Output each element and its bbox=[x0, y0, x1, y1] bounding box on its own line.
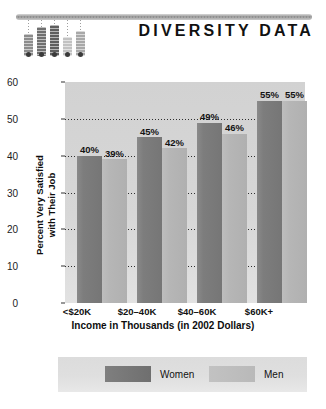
bar-chart: Percent Very Satisfied with Their Job 60… bbox=[0, 70, 326, 340]
logo-bead bbox=[52, 52, 57, 57]
logo-bead bbox=[39, 52, 44, 57]
y-axis-title-line2: with Their Job bbox=[46, 115, 58, 295]
legend-swatch-men bbox=[209, 366, 255, 382]
x-tick-label-lt20k: <$20K bbox=[52, 306, 102, 317]
bar-women-20-40k[interactable] bbox=[137, 137, 162, 303]
y-tick-label: 20 bbox=[0, 224, 18, 235]
x-axis-title: Income in Thousands (in 2002 Dollars) bbox=[0, 320, 326, 331]
x-tick-label-40-60k: $40–60K bbox=[170, 306, 224, 317]
bar-men-lt20k[interactable] bbox=[102, 159, 127, 303]
logo-string bbox=[28, 20, 29, 34]
logo-bead bbox=[26, 52, 31, 57]
legend-item-women[interactable]: Women bbox=[105, 366, 194, 382]
bar-men-60kplus[interactable] bbox=[282, 101, 307, 304]
bar-value-women-40-60k: 49% bbox=[194, 111, 225, 122]
page-header: DIVERSITY DATA bbox=[0, 0, 326, 70]
legend-swatch-women bbox=[105, 366, 151, 382]
bar-women-lt20k[interactable] bbox=[77, 156, 102, 303]
logo-string bbox=[41, 20, 42, 27]
y-axis-title: Percent Very Satisfied with Their Job bbox=[34, 115, 58, 295]
x-tick-label-20-40k: $20–40K bbox=[110, 306, 164, 317]
bar-value-men-60kplus: 55% bbox=[279, 89, 310, 100]
bar-value-men-20-40k: 42% bbox=[159, 137, 190, 148]
y-tick-label: 10 bbox=[0, 261, 18, 272]
y-tick-label: 60 bbox=[0, 77, 18, 88]
bar-value-women-20-40k: 45% bbox=[134, 126, 165, 137]
abacus-bars-logo-icon bbox=[16, 14, 116, 64]
y-tick-label: 0 bbox=[0, 298, 18, 309]
page-title: DIVERSITY DATA bbox=[139, 22, 314, 40]
legend-label-men: Men bbox=[264, 369, 283, 380]
bar-women-40-60k[interactable] bbox=[197, 123, 222, 303]
y-tick-label: 50 bbox=[0, 113, 18, 124]
logo-string bbox=[67, 20, 68, 37]
logo-rail bbox=[16, 14, 312, 20]
bar-women-60kplus[interactable] bbox=[257, 101, 282, 304]
plot-area: 40% 39% 45% 42% 49% 46% 55% 55% bbox=[65, 82, 305, 303]
legend-label-women: Women bbox=[160, 369, 194, 380]
chart-legend: Women Men bbox=[58, 357, 307, 392]
legend-item-men[interactable]: Men bbox=[209, 366, 283, 382]
logo-bead bbox=[65, 52, 70, 57]
y-axis-title-line1: Percent Very Satisfied bbox=[34, 115, 46, 295]
bar-men-40-60k[interactable] bbox=[222, 134, 247, 303]
y-tick-label: 40 bbox=[0, 150, 18, 161]
logo-string bbox=[80, 20, 81, 31]
bar-value-men-lt20k: 39% bbox=[99, 148, 130, 159]
y-tick-label: 30 bbox=[0, 187, 18, 198]
bar-value-men-40-60k: 46% bbox=[219, 122, 250, 133]
x-tick-label-60kplus: $60K+ bbox=[232, 306, 286, 317]
bar-men-20-40k[interactable] bbox=[162, 148, 187, 303]
logo-bead bbox=[78, 52, 83, 57]
